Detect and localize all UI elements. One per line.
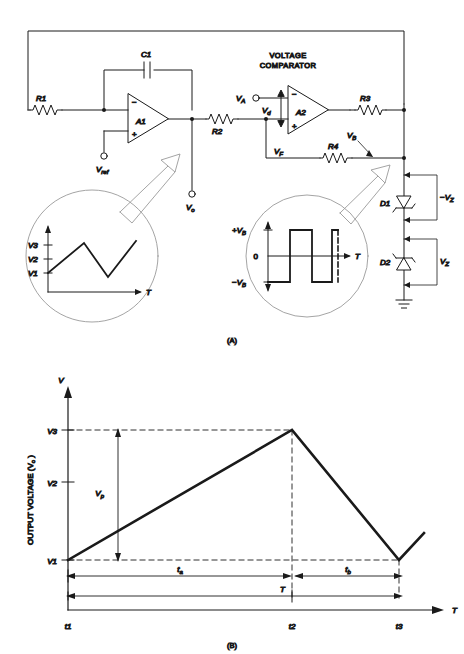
label-tb: tb <box>345 565 351 575</box>
label-r3: R3 <box>360 94 371 103</box>
figure-root: R1 C1 − + A1 Vref Vo R2 VOLTAGE COMP <box>0 0 464 654</box>
node-rail-r4 <box>402 156 406 160</box>
inset-triangle-tick-v1: V1 <box>28 269 38 278</box>
inset-square-label-zero: 0 <box>254 252 259 261</box>
graph-waveform <box>68 430 424 560</box>
capacitor-c1-branch <box>104 62 192 110</box>
graph-x-tick-t1: t1 <box>65 622 72 631</box>
label-vz-pos: VZ <box>440 257 449 267</box>
feedback-vf-r4 <box>266 119 404 163</box>
inset-square-wave <box>246 165 390 317</box>
label-vp: Vp <box>95 489 104 499</box>
graph-axes <box>62 386 444 614</box>
graph-y-axis-title: OUTPUT VOLTAGE (Vo ) <box>26 455 36 545</box>
label-r2: R2 <box>212 127 223 136</box>
label-vo: Vo <box>186 203 195 213</box>
comparator-title-line1: VOLTAGE <box>269 51 306 60</box>
label-r1: R1 <box>36 94 46 103</box>
label-period-t: T <box>280 585 286 594</box>
graph-x-tick-t2: t2 <box>289 622 296 631</box>
label-vref: Vref <box>96 165 110 175</box>
terminal-vo <box>189 119 195 197</box>
node-rail-r3 <box>402 108 406 112</box>
resistor-r1 <box>28 105 104 115</box>
resistor-r2 <box>192 114 266 124</box>
label-vz-neg: −VZ <box>440 193 454 203</box>
dimension-vz-pos <box>404 236 437 288</box>
inset-triangle-tick-v2: V2 <box>28 255 38 264</box>
label-d1: D1 <box>380 199 390 208</box>
label-a2: A2 <box>295 108 306 117</box>
inset-triangle-tick-v3: V3 <box>28 241 38 250</box>
opamp-a2 <box>266 86 350 134</box>
label-vf: VF <box>274 147 283 157</box>
ground-symbol <box>396 300 412 308</box>
dimension-vp <box>115 428 121 562</box>
opamp-a1-minus-sign: − <box>132 98 137 107</box>
label-c1: C1 <box>141 50 151 59</box>
top-feedback-rail <box>28 31 404 110</box>
panel-b-caption: (B) <box>227 641 238 650</box>
panel-a-caption: (A) <box>227 336 238 345</box>
opamp-a1-plus-sign: + <box>132 130 137 139</box>
inset-triangle-wave <box>26 154 180 322</box>
comparator-title-line2: COMPARATOR <box>260 61 317 70</box>
graph-y-tick-v2: V2 <box>47 479 57 488</box>
figure-svg: R1 C1 − + A1 Vref Vo R2 VOLTAGE COMP <box>0 0 464 654</box>
label-vd: Vd <box>262 106 271 116</box>
graph-y-tick-v3: V3 <box>47 427 57 436</box>
label-d2: D2 <box>380 258 391 267</box>
label-va: VA <box>236 94 245 104</box>
opamp-a2-plus-sign: + <box>292 122 297 131</box>
graph-y-tick-v1: V1 <box>47 557 57 566</box>
label-r4: R4 <box>328 142 339 151</box>
dimension-vd <box>278 90 284 127</box>
terminal-vref <box>101 131 107 159</box>
opamp-a1 <box>104 94 192 143</box>
graph-x-axis-symbol: T <box>452 606 458 615</box>
dimension-period <box>66 590 403 602</box>
opamp-a2-minus-sign: − <box>292 90 297 99</box>
graph-x-tick-t3: t3 <box>396 622 403 631</box>
label-ta: ta <box>177 565 183 575</box>
inset-square-label-plus-vb: +VB <box>232 226 246 236</box>
resistor-r3 <box>350 105 404 115</box>
graph-y-axis-symbol: V <box>58 376 64 385</box>
label-a1: A1 <box>135 117 146 126</box>
inset-square-label-minus-vb: −VB <box>232 278 246 288</box>
leader-vb <box>358 141 373 157</box>
inset-triangle-x-label: T <box>146 288 152 297</box>
label-vb: VB <box>347 131 356 141</box>
